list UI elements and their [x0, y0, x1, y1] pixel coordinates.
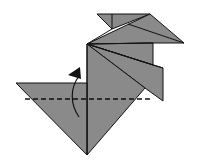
- origami-figure: [0, 0, 202, 168]
- left-triangle: [16, 83, 87, 155]
- origami-diagram: [0, 0, 202, 168]
- arrowhead-icon: [68, 67, 81, 79]
